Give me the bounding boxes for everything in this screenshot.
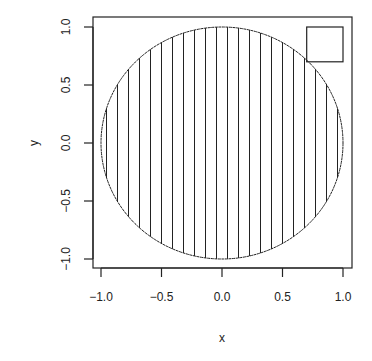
x-tick-label: 1.0 — [335, 290, 352, 304]
corner-square — [307, 27, 343, 62]
y-tick-label: −1.0 — [59, 247, 73, 271]
x-axis-title: x — [219, 331, 225, 345]
x-tick-label: 0.5 — [274, 290, 291, 304]
x-tick-label: −1.0 — [89, 290, 113, 304]
circle-hatch-lines — [107, 27, 338, 259]
x-tick-label: 0.0 — [214, 290, 231, 304]
y-axis-title: y — [27, 140, 41, 146]
y-tick-label: 0.0 — [59, 134, 73, 151]
plot-frame — [93, 17, 352, 268]
y-tick-label: 0.5 — [59, 76, 73, 93]
x-tick-label: −0.5 — [150, 290, 174, 304]
y-tick-label: 1.0 — [59, 18, 73, 35]
y-axis: −1.0−0.50.00.51.0 — [59, 18, 93, 271]
chart: −1.0−0.50.00.51.0 −1.0−0.50.00.51.0 x y — [0, 0, 372, 361]
y-tick-label: −0.5 — [59, 189, 73, 213]
x-axis: −1.0−0.50.00.51.0 — [89, 268, 352, 304]
